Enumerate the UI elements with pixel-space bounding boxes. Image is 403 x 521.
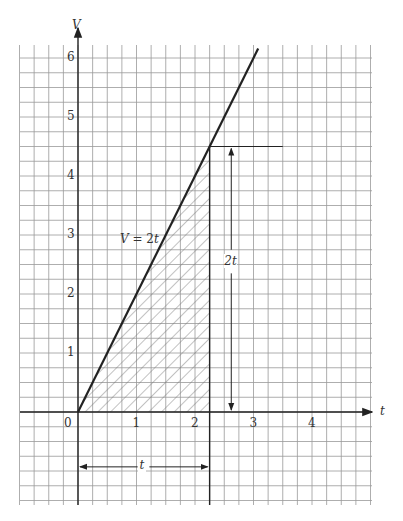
chart-plot: [0, 0, 403, 521]
y-tick-4: 4: [67, 168, 75, 182]
y-tick-5: 5: [67, 109, 75, 123]
y-tick-1: 1: [67, 345, 75, 359]
x-tick-3: 3: [250, 416, 258, 430]
x-tick-1: 1: [133, 416, 141, 430]
x-tick-4: 4: [308, 416, 316, 430]
y-tick-6: 6: [67, 50, 75, 64]
horizontal-arrow-label: t: [138, 458, 147, 472]
x-axis-label: t: [380, 404, 385, 418]
x-tick-0: 0: [64, 416, 72, 430]
y-axis-label: V: [72, 18, 81, 32]
y-tick-3: 3: [67, 227, 75, 241]
line-label: V = 2t: [120, 232, 159, 246]
y-tick-2: 2: [67, 286, 75, 300]
x-tick-2: 2: [191, 416, 199, 430]
vertical-arrow-label: 2t: [224, 254, 236, 268]
